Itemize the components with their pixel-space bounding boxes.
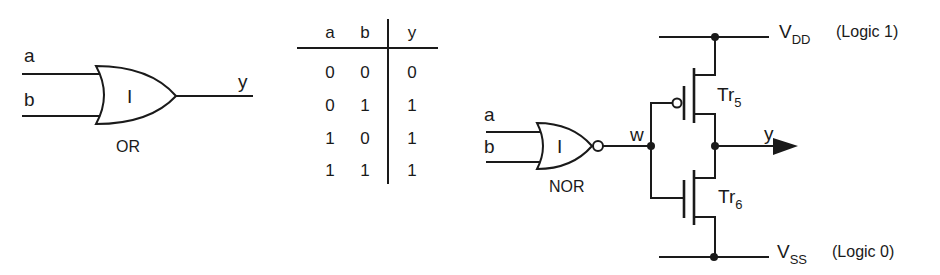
pmos-source-wire: [694, 37, 715, 75]
cell-y: 1: [407, 96, 416, 115]
output-arrow-icon: [773, 138, 798, 155]
node-w-label: w: [629, 124, 644, 145]
nor-gate-inner-symbol: I: [557, 136, 562, 157]
nor-inversion-bubble: [593, 141, 603, 151]
truth-table-header: a b y: [325, 23, 416, 42]
pmos-label: Tr5: [717, 84, 741, 110]
or-gate-symbol: [96, 66, 176, 124]
header-y: y: [408, 23, 417, 42]
header-a: a: [325, 23, 335, 42]
truth-table: a b y 0 0 0 0 1 1 1 0 1 1 1 1: [298, 20, 437, 183]
cell-b: 1: [360, 161, 369, 180]
or-gate-diagram: a b y I OR: [23, 45, 252, 155]
vss-label: VSS: [777, 241, 807, 267]
cell-a: 0: [325, 63, 334, 82]
table-row: 0 1 1: [325, 96, 416, 115]
pmos-transistor-tr5: Tr5: [651, 37, 741, 146]
cell-a: 1: [325, 129, 334, 148]
cmos-inverter: Tr5 y Tr6 VDD (Logic 1) VSS (Logic 0): [647, 21, 898, 267]
nmos-drain-wire: [694, 146, 715, 178]
or-input-b-label: b: [24, 89, 35, 110]
or-output-label: y: [238, 71, 248, 92]
vdd-logic-note: (Logic 1): [836, 23, 898, 40]
or-gate-inner-symbol: I: [127, 86, 132, 107]
cell-y: 0: [407, 63, 416, 82]
cell-b: 0: [360, 63, 369, 82]
table-row: 0 0 0: [325, 63, 416, 82]
nor-input-a-label: a: [484, 104, 495, 125]
vss-junction: [710, 253, 718, 261]
pmos-gate-bubble: [673, 99, 682, 108]
pmos-drain-wire: [694, 114, 715, 146]
nmos-source-wire: [694, 217, 715, 257]
nor-gate-caption: NOR: [549, 178, 585, 195]
or-gate-caption: OR: [116, 138, 140, 155]
cell-b: 0: [360, 129, 369, 148]
nmos-transistor-tr6: Tr6: [651, 146, 742, 257]
table-row: 1 0 1: [325, 129, 416, 148]
cell-a: 1: [325, 161, 334, 180]
nmos-label: Tr6: [718, 186, 742, 212]
vdd-label: VDD: [779, 21, 810, 47]
cell-a: 0: [325, 96, 334, 115]
output-label: y: [764, 123, 774, 144]
or-input-a-label: a: [24, 45, 35, 66]
nor-gate-symbol: [537, 123, 592, 169]
cell-y: 1: [407, 129, 416, 148]
nor-input-b-label: b: [484, 136, 495, 157]
cell-y: 1: [407, 161, 416, 180]
cell-b: 1: [360, 96, 369, 115]
diagram-canvas: a b y I OR a b y 0 0 0 0 1 1 1 0 1 1: [0, 0, 940, 275]
table-row: 1 1 1: [325, 161, 416, 180]
vss-logic-note: (Logic 0): [832, 243, 894, 260]
header-b: b: [360, 23, 369, 42]
nor-gate-diagram: a b I NOR w: [484, 104, 651, 195]
